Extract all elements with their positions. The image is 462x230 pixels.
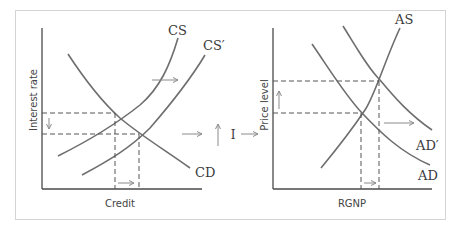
left-panel: CS CS′ CD Credit Interest rate [28, 23, 225, 209]
ad-prime-label: AD′ [415, 138, 439, 153]
cs-prime-label: CS′ [203, 38, 225, 53]
cs-prime-curve [82, 55, 205, 175]
cs-curve [58, 38, 178, 156]
as-label: AS [394, 12, 413, 27]
price-level-axis-label: Price level [259, 79, 270, 130]
cd-curve [68, 54, 190, 168]
connector: I [182, 124, 258, 146]
left-dashed-guides [42, 113, 139, 189]
economics-diagram: CS CS′ CD Credit Interest rate I [0, 0, 462, 230]
ad-curve [312, 44, 430, 165]
cd-label: CD [195, 165, 215, 180]
cs-label: CS [168, 23, 187, 38]
interest-rate-axis-label: Interest rate [28, 69, 39, 131]
credit-axis-label: Credit [105, 198, 135, 209]
right-panel: AS AD′ AD RGNP Price level [259, 12, 439, 209]
rgnp-axis-label: RGNP [338, 198, 366, 209]
ad-prime-curve [343, 26, 432, 130]
right-dashed-guides [273, 81, 379, 189]
ad-label: AD [417, 168, 438, 183]
investment-label: I [231, 128, 236, 142]
